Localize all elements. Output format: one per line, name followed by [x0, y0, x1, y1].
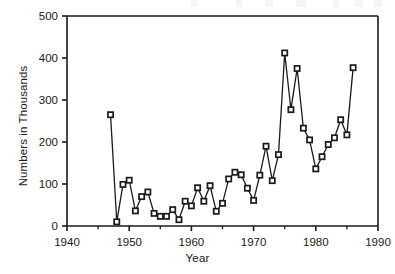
data-point-marker [295, 66, 300, 71]
data-point-marker [127, 178, 132, 183]
x-tick-label: 1940 [54, 236, 80, 248]
data-point-marker [195, 185, 200, 190]
data-point-marker [214, 209, 219, 214]
data-point-marker [176, 217, 181, 222]
data-point-marker [288, 107, 293, 112]
data-point-marker [170, 207, 175, 212]
y-tick-label: 400 [39, 52, 58, 64]
data-point-marker [164, 214, 169, 219]
data-point-marker [114, 219, 119, 224]
data-point-marker [326, 142, 331, 147]
data-point-marker [313, 166, 318, 171]
x-tick-label: 1980 [303, 236, 329, 248]
data-point-marker [220, 201, 225, 206]
x-tick-label: 1990 [365, 236, 391, 248]
data-point-marker [276, 152, 281, 157]
data-point-marker [251, 198, 256, 203]
y-tick-label: 0 [52, 220, 58, 232]
y-tick-label: 100 [39, 178, 58, 190]
data-point-marker [189, 203, 194, 208]
data-point-marker [232, 170, 237, 175]
data-point-marker [226, 176, 231, 181]
chart-figure: Numbers in Thousands Year 01002003004005… [0, 0, 395, 274]
data-point-marker [282, 50, 287, 55]
data-point-marker [351, 65, 356, 70]
x-tick-label: 1950 [116, 236, 142, 248]
data-point-marker [151, 211, 156, 216]
data-point-marker [139, 194, 144, 199]
data-point-marker [201, 199, 206, 204]
data-line [111, 53, 354, 222]
data-point-marker [257, 173, 262, 178]
data-series-layer [108, 50, 356, 224]
axis-layer [62, 16, 378, 231]
data-point-marker [319, 154, 324, 159]
data-point-marker [120, 182, 125, 187]
x-tick-label: 1970 [241, 236, 267, 248]
data-point-marker [245, 186, 250, 191]
y-tick-label: 200 [39, 136, 58, 148]
data-point-marker [158, 214, 163, 219]
data-point-marker [239, 172, 244, 177]
data-point-marker [207, 183, 212, 188]
x-tick-label: 1960 [179, 236, 205, 248]
data-point-marker [301, 126, 306, 131]
data-point-marker [263, 144, 268, 149]
data-point-marker [270, 178, 275, 183]
data-point-marker [338, 117, 343, 122]
data-point-marker [344, 132, 349, 137]
data-point-marker [145, 189, 150, 194]
y-tick-label: 300 [39, 94, 58, 106]
data-point-marker [332, 135, 337, 140]
data-point-marker [183, 199, 188, 204]
data-point-marker [133, 208, 138, 213]
y-tick-label: 500 [39, 10, 58, 22]
data-point-marker [307, 137, 312, 142]
plot-area: 0100200300400500194019501960197019801990 [0, 0, 395, 274]
data-point-marker [108, 112, 113, 117]
